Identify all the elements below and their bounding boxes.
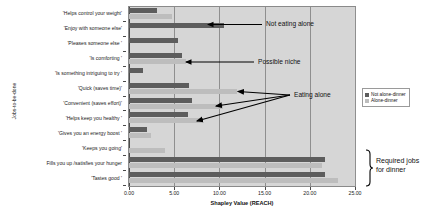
bar-row — [129, 141, 355, 156]
x-axis-ticks: 0.005.0010.0015.0020.0025.00 — [128, 187, 356, 197]
bar-alone-dinner — [129, 133, 151, 138]
bar-alone-dinner — [129, 104, 223, 109]
y-axis-label: 'Keeps you going' — [82, 145, 122, 151]
bar-alone-dinner — [129, 118, 203, 123]
y-axis-tick — [123, 170, 126, 171]
bar-row — [129, 37, 355, 52]
y-axis-label: 'Is comforting ' — [89, 55, 122, 61]
gridline — [355, 7, 356, 186]
y-axis-tick — [123, 21, 126, 22]
bar-not-alone-dinner — [129, 98, 192, 103]
x-axis-tick-label: 15.00 — [258, 190, 271, 196]
annotation-possible-niche: Possible niche — [258, 58, 301, 65]
bar-row — [129, 52, 355, 67]
legend-swatch-icon-alone-dinner — [365, 99, 369, 103]
y-axis-label: Fills you up /satisfies your hunger — [46, 160, 122, 166]
bar-row — [129, 111, 355, 126]
bar-row — [129, 171, 355, 186]
bar-row — [129, 67, 355, 82]
y-axis-tick — [123, 125, 126, 126]
legend-swatch-icon-not-alone-dinner — [365, 93, 369, 97]
x-axis-tick-label: 25.00 — [349, 190, 362, 196]
legend-label-alone-dinner: Alone-dinner — [371, 98, 398, 103]
bar-alone-dinner — [129, 178, 338, 183]
bar-alone-dinner — [129, 163, 322, 168]
y-axis-tick — [123, 140, 126, 141]
y-axis-label: 'Helps keep you healthy ' — [66, 115, 122, 121]
y-axis-tick — [123, 155, 126, 156]
shapley-value-bar-chart: Jobs-to-be-done 'Helps control your weig… — [0, 0, 427, 224]
x-axis-tick-label: 0.00 — [124, 190, 134, 196]
annotation-eating-alone: Eating alone — [294, 91, 331, 98]
annotation-required-jobs-line1: Required jobs — [376, 156, 419, 165]
bar-row — [129, 97, 355, 112]
bar-not-alone-dinner — [129, 53, 182, 58]
bar-not-alone-dinner — [129, 157, 325, 162]
bar-not-alone-dinner — [129, 127, 147, 132]
y-axis-label: 'Tastes good ' — [91, 175, 122, 181]
y-axis-label: 'Convenient (saves effort)' — [63, 100, 122, 106]
y-axis-tick — [123, 110, 126, 111]
annotation-required-jobs: Required jobs for dinner — [376, 156, 419, 174]
y-axis-tick — [123, 66, 126, 67]
bar-not-alone-dinner — [129, 23, 224, 28]
bar-not-alone-dinner — [129, 83, 189, 88]
legend-item-alone-dinner: Alone-dinner — [365, 98, 406, 103]
legend-item-not-alone-dinner: Not alone-dinner — [365, 92, 406, 97]
x-axis-tick-label: 20.00 — [303, 190, 316, 196]
bar-alone-dinner — [129, 14, 172, 19]
bar-not-alone-dinner — [129, 68, 143, 73]
x-axis-tick-label: 5.00 — [169, 190, 179, 196]
bar-alone-dinner — [129, 148, 165, 153]
annotation-required-jobs-line2: for dinner — [376, 165, 419, 174]
bar-row — [129, 22, 355, 37]
y-axis-label: 'Gives you an energy boost ' — [58, 130, 122, 136]
y-axis-labels: 'Helps control your weight''Enjoy with s… — [0, 6, 126, 187]
annotation-not-eating-alone: Not eating alone — [266, 20, 314, 27]
y-axis-tick — [123, 185, 126, 186]
legend: Not alone-dinner Alone-dinner — [362, 88, 410, 107]
x-axis-title: Shapley Value (REACH) — [128, 200, 356, 206]
bar-row — [129, 126, 355, 141]
bar-alone-dinner — [129, 89, 237, 94]
bar-not-alone-dinner — [129, 172, 325, 177]
y-axis-tick — [123, 96, 126, 97]
y-axis-tick — [123, 81, 126, 82]
bar-not-alone-dinner — [129, 8, 157, 13]
y-axis-label: 'Quick (saves time)' — [78, 85, 122, 91]
y-axis-label: 'Is something intriguing to try ' — [55, 70, 122, 76]
y-axis-label: 'Enjoy with someone else' — [64, 25, 122, 31]
y-axis-label: 'Pleases someone else ' — [67, 40, 122, 46]
y-axis-tick — [123, 51, 126, 52]
y-axis-label: 'Helps control your weight' — [63, 10, 122, 16]
bar-alone-dinner — [129, 59, 186, 64]
bar-not-alone-dinner — [129, 38, 178, 43]
legend-label-not-alone-dinner: Not alone-dinner — [371, 92, 406, 97]
bar-row — [129, 156, 355, 171]
bar-row — [129, 7, 355, 22]
x-axis-tick-label: 10.00 — [213, 190, 226, 196]
bar-not-alone-dinner — [129, 112, 188, 117]
y-axis-tick — [123, 36, 126, 37]
